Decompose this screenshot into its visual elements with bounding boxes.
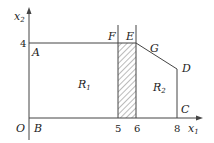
- origin-label: O: [16, 122, 25, 135]
- y-tick-4: 4: [20, 38, 26, 49]
- x-tick-6: 6: [134, 123, 140, 134]
- point-d-label: D: [181, 62, 191, 75]
- x-tick-5: 5: [115, 123, 121, 134]
- point-e-label: E: [125, 30, 134, 43]
- y-axis-label: x2: [14, 10, 25, 24]
- region-r2-label: R2: [152, 81, 166, 95]
- y-axis-arrow-icon: [27, 7, 32, 14]
- point-a-label: A: [31, 46, 40, 59]
- point-c-label: C: [181, 103, 190, 116]
- shaded-strip: [118, 43, 136, 118]
- point-b-label: B: [33, 122, 42, 135]
- x-tick-8: 8: [174, 123, 180, 134]
- x-axis-arrow-icon: [196, 116, 203, 121]
- branch-bound-diagram: x2 x1 O 4 5 6 8 A B F E G D C R1 R2: [0, 0, 214, 143]
- point-g-label: G: [150, 42, 159, 55]
- x-axis-label: x1: [188, 122, 199, 136]
- region-r1-label: R1: [77, 78, 91, 92]
- point-f-label: F: [107, 30, 116, 43]
